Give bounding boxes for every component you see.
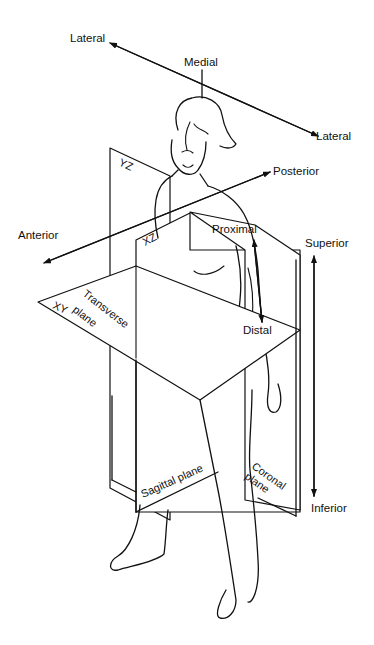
label-medial: Medial bbox=[184, 56, 218, 68]
label-lateral-left: Lateral bbox=[70, 32, 105, 44]
label-distal: Distal bbox=[243, 324, 272, 336]
label-anterior: Anterior bbox=[18, 229, 58, 241]
anatomical-planes-diagram: Lateral Medial Lateral Posterior Anterio… bbox=[0, 0, 374, 645]
label-superior: Superior bbox=[305, 237, 349, 249]
label-posterior: Posterior bbox=[273, 165, 319, 177]
label-inferior: Inferior bbox=[311, 502, 347, 514]
label-lateral-right: Lateral bbox=[316, 130, 351, 142]
label-proximal: Proximal bbox=[212, 223, 257, 235]
